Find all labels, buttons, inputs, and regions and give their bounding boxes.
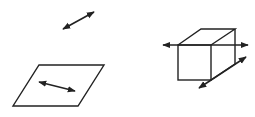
cube-top-face <box>178 29 235 45</box>
cube-figure <box>163 29 248 88</box>
cube-diagonal-double-arrow <box>199 57 246 88</box>
free-double-arrow <box>63 12 94 29</box>
plane-figure <box>13 65 104 106</box>
in-plane-double-arrow <box>39 82 75 91</box>
parallelogram-plane <box>13 65 104 106</box>
cube-front-face <box>178 45 211 80</box>
diagram-canvas <box>0 0 255 117</box>
